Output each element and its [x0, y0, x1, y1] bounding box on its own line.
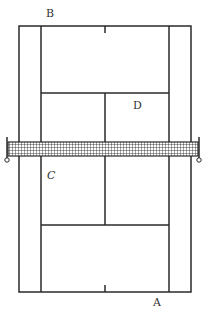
left-post-base: [5, 158, 9, 162]
label-d: D: [133, 100, 142, 111]
label-a: A: [153, 297, 161, 308]
label-c: C: [47, 170, 55, 181]
right-post-base: [197, 158, 201, 162]
label-b: B: [46, 8, 54, 19]
net: [5, 137, 201, 162]
tennis-court-diagram: [0, 0, 204, 315]
